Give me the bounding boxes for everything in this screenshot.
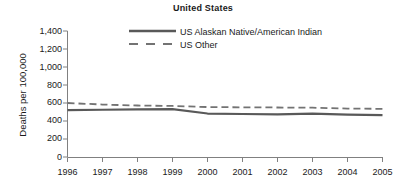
x-tick-label-1999: 1999 [162,167,182,177]
line-chart-svg: Deaths per 100,000 1,400 1,200 1,000 800… [0,0,406,192]
y-tick-label-1000: 1,000 [39,62,62,72]
x-tick-label-2001: 2001 [232,167,252,177]
y-tick-label-400: 400 [47,115,62,125]
series-line-us-other [68,103,383,109]
series-line-us-alaskan-native-american-indian [68,109,383,115]
x-tick-label-1996: 1996 [57,167,77,177]
y-tick-label-200: 200 [47,133,62,143]
x-tick-label-2005: 2005 [372,167,392,177]
x-axis-ticks [68,158,383,163]
x-tick-label-2002: 2002 [267,167,287,177]
y-tick-label-0: 0 [57,152,62,162]
y-axis-title: Deaths per 100,000 [17,53,28,136]
y-tick-label-1200: 1,200 [39,44,62,54]
y-tick-label-800: 800 [47,80,62,90]
x-tick-label-2004: 2004 [337,167,357,177]
y-axis-ticks [63,31,68,157]
legend-label-us-other: US Other [180,40,218,50]
y-tick-label-600: 600 [47,97,62,107]
y-tick-label-1400: 1,400 [39,26,62,36]
legend-label-us-alaskan-native-american-indian: US Alaskan Native/American Indian [180,27,322,37]
x-tick-label-2003: 2003 [302,167,322,177]
chart-container: United States Deaths per 100,000 1,400 1… [0,0,406,192]
x-tick-label-2000: 2000 [197,167,217,177]
x-tick-label-1997: 1997 [92,167,112,177]
x-tick-label-1998: 1998 [127,167,147,177]
